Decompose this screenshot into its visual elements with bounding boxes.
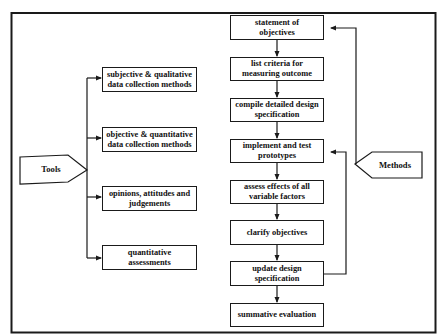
tools-label: Tools [22, 164, 80, 174]
step-summative-evaluation: summative evaluation [230, 303, 324, 327]
step-compile-design-specification: compile detailed design specification [230, 98, 324, 122]
tool-box-opinions-attitudes: opinions, attitudes and judgements [102, 186, 197, 211]
step-statement-of-objectives: statement of objectives [230, 15, 324, 40]
step-implement-test-prototypes: implement and test prototypes [230, 139, 324, 163]
tool-box-objective-quantitative: objective & quantitative data collection… [102, 127, 197, 152]
methods-label: Methods [368, 160, 422, 170]
step-clarify-objectives: clarify objectives [230, 220, 324, 245]
tool-box-subjective-qualitative: subjective & qualitative data collection… [102, 67, 197, 92]
step-list-criteria: list criteria for measuring outcome [230, 57, 324, 81]
step-update-design-specification: update design specification [230, 261, 324, 286]
tool-box-quantitative-assessments: quantitative assessments [102, 245, 197, 270]
step-assess-variable-factors: assess effects of all variable factors [230, 180, 324, 204]
diagram-canvas: Tools Methods subjective & qualitative d… [0, 0, 444, 336]
